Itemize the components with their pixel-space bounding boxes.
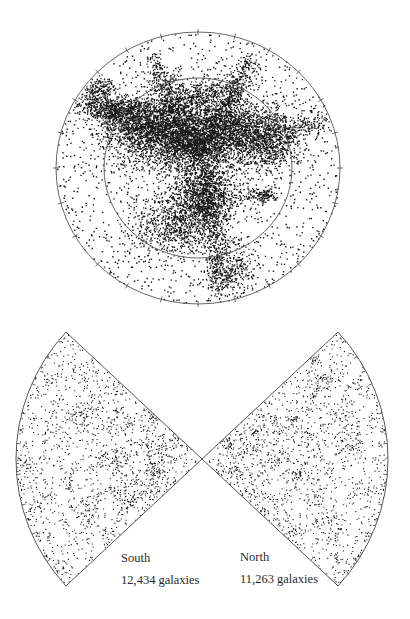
north-label: North	[240, 551, 269, 564]
north-wedge	[202, 332, 388, 589]
galaxy-survey-figure	[0, 0, 410, 619]
south-wedge	[11, 332, 202, 586]
south-wedge-points	[11, 335, 197, 583]
south-label: South	[121, 552, 150, 565]
south-arc-ticks	[17, 356, 175, 561]
north-galaxy-count: 11,263 galaxies	[240, 573, 318, 586]
polar-sky-map	[53, 29, 343, 307]
north-wedge-points	[209, 335, 388, 589]
north-wedge-outline	[202, 332, 388, 586]
south-galaxy-count: 12,434 galaxies	[121, 574, 199, 587]
wedge-diagram	[11, 332, 389, 589]
sky-map-points	[57, 34, 339, 304]
